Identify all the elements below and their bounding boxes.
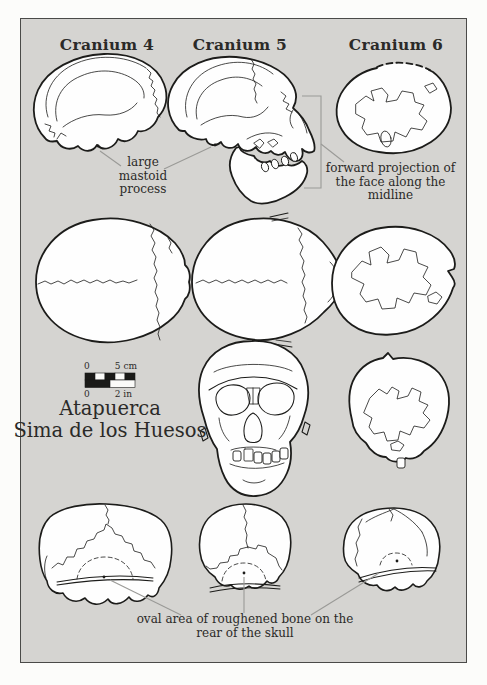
cranium-4-superior-drawing <box>36 218 190 342</box>
annotation-mastoid-line-3: process <box>103 183 183 197</box>
cranium-5-frontal-drawing <box>199 341 310 496</box>
site-title: Atapuerca Sima de los Huesos <box>10 398 210 441</box>
annotation-mastoid-line-2: mastoid <box>103 170 183 184</box>
annotation-oval-area-line-2: rear of the skull <box>125 626 365 640</box>
column-header-cranium-5: Cranium 5 <box>170 35 310 54</box>
scale-bar <box>85 373 135 388</box>
cranium-5-superior-drawing <box>192 213 346 347</box>
site-title-line-1: Atapuerca <box>10 398 210 420</box>
scale-bar-cm-zero-label: 0 <box>84 361 90 371</box>
cranium-6-frontal-drawing <box>349 353 449 468</box>
leader-line-oval-right <box>311 573 379 615</box>
leader-line-forward-projection <box>321 144 344 162</box>
cranium-4-lateral-drawing <box>34 54 167 151</box>
cranium-5-posterior-drawing <box>200 504 291 592</box>
cranium-5-lateral-drawing <box>168 57 315 204</box>
annotation-mastoid: large mastoid process <box>103 156 183 197</box>
annotation-mastoid-line-1: large <box>103 156 183 170</box>
figure-page: Cranium 4 Cranium 5 Cranium 6 large mast… <box>0 0 487 685</box>
column-header-cranium-4: Cranium 4 <box>37 35 177 54</box>
site-title-line-2: Sima de los Huesos <box>10 420 210 442</box>
cranium-4-posterior-drawing <box>39 504 171 604</box>
cranium-6-lateral-drawing <box>337 63 451 153</box>
skull-line-art <box>0 0 487 685</box>
cranium-6-superior-drawing <box>332 227 455 335</box>
annotation-forward-projection-line-3: midline <box>318 189 463 203</box>
scale-bar-cm-label: 5 cm <box>105 361 137 371</box>
column-header-cranium-6: Cranium 6 <box>326 35 466 54</box>
annotation-oval-area: oval area of roughened bone on the rear … <box>125 612 365 640</box>
annotation-forward-projection-line-2: the face along the <box>318 176 463 190</box>
annotation-forward-projection-line-1: forward projection of <box>318 162 463 176</box>
annotation-forward-projection: forward projection of the face along the… <box>318 162 463 203</box>
annotation-oval-area-line-1: oval area of roughened bone on the <box>125 612 365 626</box>
cranium-6-posterior-drawing <box>344 508 440 591</box>
